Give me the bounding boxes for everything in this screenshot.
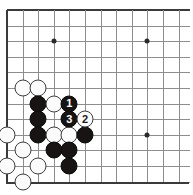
- star-point: [145, 132, 150, 137]
- stone-black[interactable]: [30, 111, 47, 128]
- stone-white[interactable]: [45, 126, 62, 143]
- board-line-vertical: [132, 10, 133, 183]
- stone-white[interactable]: [14, 173, 31, 190]
- stone-white[interactable]: [30, 80, 47, 97]
- stone-white[interactable]: [61, 126, 78, 143]
- stone-move-number: 1: [66, 98, 72, 109]
- stone-white[interactable]: [0, 158, 16, 175]
- board-line-vertical: [163, 10, 164, 183]
- stone-white-move-2[interactable]: 2: [77, 111, 94, 128]
- board-line-vertical: [116, 10, 117, 183]
- board-edge-bottom: [6, 182, 189, 184]
- stone-black[interactable]: [45, 142, 62, 159]
- stone-white[interactable]: [0, 126, 16, 143]
- stone-black-move-3[interactable]: 3: [61, 111, 78, 128]
- go-diagram-figure: 132: [0, 0, 193, 195]
- stone-white[interactable]: [45, 95, 62, 112]
- stone-white[interactable]: [14, 80, 31, 97]
- board-line-vertical: [101, 10, 102, 183]
- stone-move-number: 3: [66, 113, 72, 124]
- stone-black-move-1[interactable]: 1: [61, 95, 78, 112]
- go-board[interactable]: 132: [0, 0, 193, 195]
- star-point: [145, 39, 150, 44]
- stone-move-number: 2: [82, 113, 88, 124]
- stone-black[interactable]: [77, 126, 94, 143]
- stone-black[interactable]: [61, 158, 78, 175]
- stone-black[interactable]: [61, 142, 78, 159]
- board-line-vertical: [179, 10, 180, 183]
- star-point: [51, 39, 56, 44]
- stone-white[interactable]: [30, 158, 47, 175]
- stone-black[interactable]: [30, 126, 47, 143]
- stone-black[interactable]: [30, 95, 47, 112]
- board-line-vertical: [85, 10, 86, 183]
- board-line-vertical: [147, 10, 148, 183]
- stone-white[interactable]: [14, 142, 31, 159]
